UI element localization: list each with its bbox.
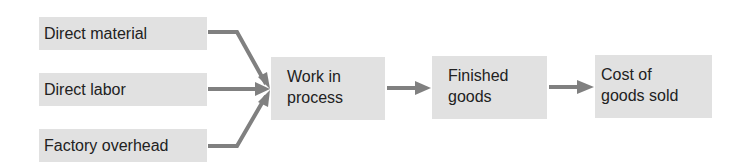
arrow-direct-material-to-wip bbox=[208, 32, 270, 89]
arrow-finished-goods-to-cogs bbox=[549, 80, 594, 94]
arrows-layer bbox=[0, 0, 742, 167]
arrow-direct-labor-to-wip bbox=[208, 82, 270, 96]
arrow-wip-to-finished-goods bbox=[387, 81, 431, 95]
arrow-factory-overhead-to-wip bbox=[208, 90, 270, 146]
